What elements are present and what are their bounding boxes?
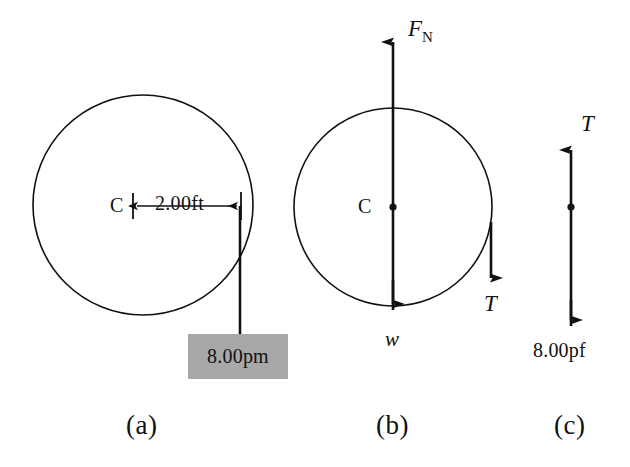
tension-label-c: T [581, 112, 594, 135]
panel-a-graphics [33, 95, 253, 336]
tension-label-b: T [484, 292, 497, 315]
normal-force-label: FN [408, 17, 433, 45]
center-point-b [389, 203, 396, 210]
center-point-c [567, 203, 574, 210]
hanging-block: 8.00pm [188, 334, 288, 379]
caption-c: (c) [554, 412, 585, 439]
caption-b: (b) [376, 412, 409, 439]
center-label-a: C [110, 195, 123, 215]
figure-canvas [0, 0, 630, 467]
weight-label-c: 8.00pf [533, 340, 586, 360]
radius-dimension-label: 2.00ft [155, 193, 204, 213]
panel-b-graphics [294, 42, 492, 310]
center-label-b: C [358, 196, 371, 216]
weight-label-b: w [385, 329, 399, 350]
hanging-block-label: 8.00pm [207, 345, 269, 368]
physics-figure: C 2.00ft 8.00pm (a) FN C w T (b) T 8.00p… [0, 0, 630, 467]
caption-a: (a) [126, 412, 157, 439]
wheel-circle-a [33, 95, 253, 315]
panel-c-graphics [567, 150, 574, 326]
